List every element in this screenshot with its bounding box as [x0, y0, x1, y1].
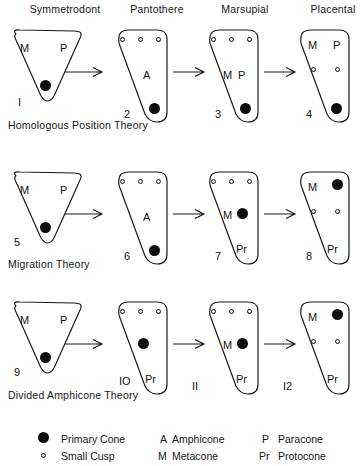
- panel-1-primary-cone: [40, 80, 51, 91]
- panel-2-small-cusp-2: [138, 37, 143, 42]
- legend-primary-cone-icon: [38, 432, 49, 443]
- panel-12-small-cusp-2: [335, 339, 340, 344]
- panel-10-primary-cone: [138, 338, 149, 349]
- legend-primary-cone-label: Primary Cone: [61, 434, 125, 445]
- panel-12-primary-cone: [332, 309, 343, 320]
- panel-3-marsupial: M P: [196, 26, 262, 126]
- arrow-5-6: [64, 206, 106, 224]
- legend-protocone-key: Pr: [259, 451, 270, 462]
- panel-11-small-cusp-1: [211, 309, 216, 314]
- legend: Primary Cone Small Cusp A Amphicone M Me…: [0, 408, 363, 466]
- panel-12-number: I2: [283, 381, 292, 392]
- panel-11-label-protocone: Pr: [236, 374, 247, 385]
- panel-7-label-protocone: Pr: [236, 244, 247, 255]
- panel-8-small-cusp-2: [335, 209, 340, 214]
- panel-7-number: 7: [215, 251, 221, 262]
- panel-7-small-cusp-1: [211, 179, 216, 184]
- panel-9-primary-cone: [40, 352, 51, 363]
- panel-3-number: 3: [215, 109, 221, 120]
- panel-4-small-cusp-2: [335, 67, 340, 72]
- legend-amphicone-key: A: [160, 434, 167, 445]
- panel-8-number: 8: [306, 251, 312, 262]
- legend-paracone-label: Paracone: [278, 434, 323, 445]
- panel-2-small-cusp-3: [156, 37, 161, 42]
- panel-7-primary-cone: [237, 208, 248, 219]
- panel-6-pantothere: A: [105, 168, 171, 268]
- panel-8-label-metacone: M: [308, 182, 317, 193]
- panel-6-small-cusp-3: [156, 179, 161, 184]
- panel-4-small-cusp-1: [311, 67, 316, 72]
- panel-6-label-amphicone: A: [143, 212, 150, 223]
- theory-label-homologous-position: Homologous Position Theory: [8, 119, 148, 131]
- panel-2-label-amphicone: A: [143, 70, 150, 81]
- arrow-9-10: [64, 336, 106, 354]
- panel-1-number: I: [18, 97, 21, 108]
- panel-9-label-paracone: P: [60, 315, 67, 326]
- arrow-1-2: [64, 64, 106, 82]
- panel-11-marsupial: M Pr: [196, 298, 262, 398]
- panel-8-label-protocone: Pr: [327, 244, 338, 255]
- panel-4-label-paracone: P: [333, 40, 340, 51]
- panel-10-small-cusp-1: [120, 309, 125, 314]
- panel-12-small-cusp-1: [311, 339, 316, 344]
- panel-11-small-cusp-3: [247, 309, 252, 314]
- panel-5-primary-cone: [40, 222, 51, 233]
- legend-small-cusp-label: Small Cusp: [61, 451, 115, 462]
- legend-paracone-key: P: [262, 434, 269, 445]
- panel-6-number: 6: [124, 251, 130, 262]
- panel-5-label-metacone: M: [20, 185, 29, 196]
- panel-8-small-cusp-1: [311, 209, 316, 214]
- panel-11-number: II: [192, 381, 198, 392]
- theory-label-migration: Migration Theory: [8, 258, 90, 270]
- panel-1-label-metacone: M: [20, 43, 29, 54]
- panel-11-primary-cone: [237, 338, 248, 349]
- legend-metacone-key: M: [158, 451, 167, 462]
- panel-3-label-paracone: P: [238, 70, 245, 81]
- legend-small-cusp-icon: [41, 453, 46, 458]
- panel-4-primary-cone: [331, 103, 342, 114]
- panel-7-small-cusp-2: [229, 179, 234, 184]
- panel-10-number: IO: [119, 376, 131, 387]
- panel-2-primary-cone: [149, 103, 160, 114]
- panel-7-small-cusp-3: [247, 179, 252, 184]
- panel-8-placental: M Pr: [287, 168, 353, 268]
- panel-6-small-cusp-2: [138, 179, 143, 184]
- panel-11-label-metacone: M: [223, 340, 232, 351]
- panel-4-number: 4: [306, 109, 312, 120]
- panel-3-label-metacone: M: [223, 70, 232, 81]
- panel-4-label-metacone: M: [308, 40, 317, 51]
- panel-7-label-metacone: M: [223, 210, 232, 221]
- panel-1-label-paracone: P: [60, 43, 67, 54]
- panel-3-primary-cone: [240, 103, 251, 114]
- panel-12-placental: M Pr: [287, 298, 353, 398]
- panel-3-small-cusp-3: [247, 37, 252, 42]
- legend-metacone-label: Metacone: [172, 451, 218, 462]
- theory-label-divided-amphicone: Divided Amphicone Theory: [8, 389, 138, 401]
- panel-7-marsupial: M Pr: [196, 168, 262, 268]
- legend-protocone-label: Protocone: [278, 451, 326, 462]
- legend-amphicone-label: Amphicone: [172, 434, 225, 445]
- panel-2-small-cusp-1: [120, 37, 125, 42]
- panel-9-label-metacone: M: [20, 315, 29, 326]
- panel-3-small-cusp-2: [229, 37, 234, 42]
- panel-10-small-cusp-3: [156, 309, 161, 314]
- diagram-canvas: Symmetrodont Pantothere Marsupial Placen…: [0, 0, 363, 466]
- panel-11-small-cusp-2: [229, 309, 234, 314]
- column-header-placental: Placental: [278, 3, 363, 15]
- panel-4-placental: M P: [287, 26, 353, 126]
- panel-2-pantothere: A: [105, 26, 171, 126]
- panel-12-label-metacone: M: [308, 312, 317, 323]
- panel-9-number: 9: [14, 367, 20, 378]
- panel-6-primary-cone: [149, 245, 160, 256]
- panel-10-small-cusp-2: [138, 309, 143, 314]
- panel-10-label-protocone: Pr: [145, 374, 156, 385]
- panel-10-pantothere: Pr: [105, 298, 171, 398]
- panel-6-small-cusp-1: [120, 179, 125, 184]
- panel-5-label-paracone: P: [60, 185, 67, 196]
- panel-5-number: 5: [14, 237, 20, 248]
- panel-3-small-cusp-1: [211, 37, 216, 42]
- panel-8-primary-cone: [332, 179, 343, 190]
- panel-12-label-protocone: Pr: [327, 374, 338, 385]
